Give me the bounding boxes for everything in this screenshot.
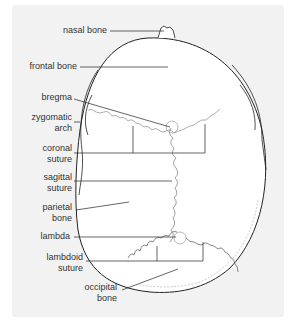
label-occipital-bone: occipital bone <box>50 282 117 304</box>
label-frontal-bone: frontal bone <box>10 61 77 72</box>
nasal-bone-shape <box>158 26 175 38</box>
skull-outline <box>76 38 266 293</box>
label-coronal-suture: coronal suture <box>10 143 72 165</box>
label-bregma: bregma <box>10 92 72 103</box>
label-sagittal-suture: sagittal suture <box>10 172 72 194</box>
label-parietal-bone: parietal bone <box>10 202 72 224</box>
label-nasal-bone: nasal bone <box>40 25 107 36</box>
label-zygomatic-arch: zygomatic arch <box>10 112 72 134</box>
label-lambda: lambda <box>10 231 70 242</box>
label-lambdoid-suture: lambdoid suture <box>10 252 83 274</box>
